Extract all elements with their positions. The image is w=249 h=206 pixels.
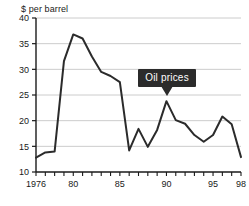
data-line-oil-prices xyxy=(36,34,241,157)
x-tick-label: 98 xyxy=(236,179,246,189)
y-tick-label: 10 xyxy=(19,167,29,177)
x-tick-label: 85 xyxy=(115,179,125,189)
x-tick-label: 80 xyxy=(68,179,78,189)
oil-prices-chart: $ per barrel 101520253035401976808590959… xyxy=(0,0,249,206)
y-tick-label: 25 xyxy=(19,90,29,100)
y-tick-label: 40 xyxy=(19,13,29,23)
oil-prices-callout: Oil prices xyxy=(138,69,196,87)
y-tick-label: 20 xyxy=(19,116,29,126)
y-tick-label: 35 xyxy=(19,39,29,49)
x-tick-label: 90 xyxy=(161,179,171,189)
y-tick-label: 15 xyxy=(19,142,29,152)
callout-pointer-icon xyxy=(161,86,173,96)
chart-plot-area: 1015202530354019768085909598 xyxy=(0,0,249,206)
callout-label: Oil prices xyxy=(138,69,196,87)
y-tick-label: 30 xyxy=(19,65,29,75)
x-tick-label: 1976 xyxy=(26,179,46,189)
x-tick-label: 95 xyxy=(208,179,218,189)
